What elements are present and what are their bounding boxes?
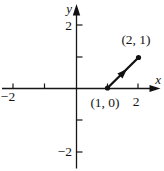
x-axis-label: x — [154, 72, 161, 87]
point-end-dot — [136, 55, 141, 60]
coordinate-plane: y x 2 −2 −2 2 (1, 0) (2, 1) — [0, 0, 164, 171]
y-tick-label-neg2: −2 — [58, 144, 72, 159]
x-tick-label-2: 2 — [133, 94, 140, 109]
y-tick-label-2: 2 — [65, 18, 72, 33]
point-start-label: (1, 0) — [90, 95, 119, 110]
point-start-dot — [105, 85, 110, 90]
vector-plot-figure: y x 2 −2 −2 2 (1, 0) (2, 1) — [0, 0, 164, 171]
x-tick-label-neg2: −2 — [1, 89, 15, 104]
y-axis-arrow-icon — [73, 4, 80, 16]
point-end-label: (2, 1) — [121, 32, 150, 47]
y-axis-label: y — [64, 1, 72, 16]
